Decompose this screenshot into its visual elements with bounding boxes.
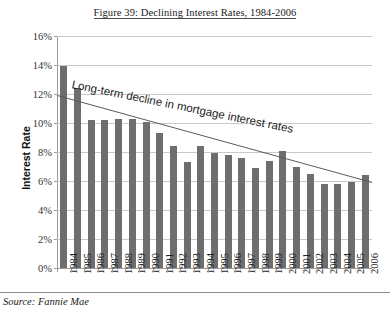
y-axis-tick-label: 0%	[10, 263, 52, 274]
x-axis-tick-mark	[372, 269, 373, 272]
y-axis-tick-label: 10%	[10, 118, 52, 129]
x-axis-tick-label: 1991	[164, 253, 175, 274]
x-axis-tick-mark	[98, 269, 99, 272]
x-axis-tick-mark	[139, 269, 140, 272]
x-axis-tick-mark	[331, 269, 332, 272]
gridline	[57, 65, 372, 66]
x-axis-tick-mark	[112, 269, 113, 272]
x-axis-tick-label: 1996	[232, 253, 243, 274]
x-axis-tick-label: 1998	[260, 253, 271, 274]
x-axis-tick-mark	[290, 269, 291, 272]
x-axis-tick-label: 1999	[273, 253, 284, 274]
x-axis-tick-label: 1988	[123, 253, 134, 274]
x-axis-tick-label: 1984	[68, 253, 79, 274]
x-axis-tick-mark	[57, 269, 58, 272]
x-axis-tick-label: 1992	[177, 253, 188, 274]
bar	[88, 120, 95, 268]
x-axis-tick-mark	[358, 269, 359, 272]
bar	[60, 66, 67, 268]
x-axis-tick-mark	[194, 269, 195, 272]
x-axis-tick-label: 1986	[95, 253, 106, 274]
x-axis-tick-mark	[208, 269, 209, 272]
y-axis-tick-label: 14%	[10, 60, 52, 71]
bar	[211, 153, 218, 268]
bar	[115, 119, 122, 268]
x-axis-tick-mark	[84, 269, 85, 272]
y-axis-tick-label: 12%	[10, 89, 52, 100]
bar	[129, 119, 136, 268]
x-axis-tick-label: 1987	[109, 253, 120, 274]
x-axis-tick-label: 1994	[205, 253, 216, 274]
y-axis-tick-label: 8%	[10, 147, 52, 158]
x-axis-tick-label: 1993	[191, 253, 202, 274]
gridline	[57, 36, 372, 37]
x-axis-tick-label: 2003	[328, 253, 339, 274]
x-axis-tick-mark	[71, 269, 72, 272]
x-axis-tick-label: 1989	[136, 253, 147, 274]
bar	[170, 146, 177, 268]
x-axis-tick-mark	[235, 269, 236, 272]
figure-container: Figure 39: Declining Interest Rates, 198…	[0, 0, 390, 311]
x-axis-tick-mark	[276, 269, 277, 272]
x-axis-tick-label: 1990	[150, 253, 161, 274]
bar	[74, 88, 81, 268]
x-axis-tick-label: 2004	[342, 253, 353, 274]
x-axis-tick-mark	[304, 269, 305, 272]
bar	[143, 122, 150, 268]
x-axis-tick-mark	[125, 269, 126, 272]
x-axis-tick-label: 2000	[287, 253, 298, 274]
x-axis-tick-label: 1995	[219, 253, 230, 274]
x-axis-tick-mark	[180, 269, 181, 272]
x-axis-tick-mark	[153, 269, 154, 272]
bar	[156, 133, 163, 268]
bar	[266, 161, 273, 268]
x-axis-tick-mark	[317, 269, 318, 272]
y-axis-tick-label: 2%	[10, 234, 52, 245]
bar	[197, 146, 204, 268]
plot-area	[57, 36, 372, 268]
x-axis-tick-label: 2005	[355, 253, 366, 274]
y-axis-tick-label: 6%	[10, 176, 52, 187]
bar	[279, 151, 286, 268]
bar	[225, 155, 232, 268]
x-axis-tick-label: 1985	[82, 253, 93, 274]
x-axis-tick-mark	[262, 269, 263, 272]
x-axis-tick-label: 2001	[301, 253, 312, 274]
x-axis-tick-label: 2002	[314, 253, 325, 274]
bar	[238, 158, 245, 268]
bar	[101, 120, 108, 268]
x-axis-tick-mark	[167, 269, 168, 272]
y-axis-tick-label: 4%	[10, 205, 52, 216]
x-axis-tick-mark	[345, 269, 346, 272]
x-axis-tick-mark	[221, 269, 222, 272]
x-axis-tick-label: 2006	[369, 253, 380, 274]
x-axis-tick-label: 1997	[246, 253, 257, 274]
x-axis-tick-mark	[249, 269, 250, 272]
source-divider	[0, 292, 390, 293]
source-note: Source: Fannie Mae	[3, 296, 89, 307]
y-axis-tick-label: 16%	[10, 31, 52, 42]
